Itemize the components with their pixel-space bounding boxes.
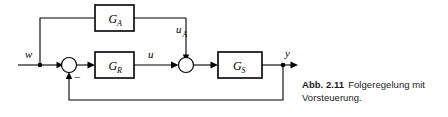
signal-uA-base: u	[176, 23, 182, 35]
figure-root: G A u A w −	[0, 0, 448, 117]
arrowhead-into-sum2	[171, 62, 179, 69]
arrowhead-feedback-into-sum1	[66, 72, 72, 79]
segment-w-to-sum1	[40, 62, 64, 68]
input-w-segment: w	[18, 48, 40, 65]
block-GS[interactable]: G S	[218, 52, 262, 78]
figure-caption-label: Abb. 2.11	[302, 79, 344, 90]
summing-junction-2[interactable]	[179, 58, 194, 73]
signal-y-label: y	[284, 47, 290, 59]
block-GS-subscript: S	[242, 66, 246, 75]
arrowhead-output-y	[291, 62, 299, 69]
signal-w-label: w	[25, 48, 33, 60]
figure-caption: Abb. 2.11Folgeregelung mit Vorsteuerung.	[302, 79, 446, 104]
summing-junction-1[interactable]: −	[62, 58, 82, 85]
block-GA[interactable]: G A	[95, 5, 134, 31]
block-diagram: G A u A w −	[0, 0, 300, 117]
arrowhead-into-GR	[88, 62, 96, 69]
block-GA-subscript: A	[116, 19, 122, 28]
signal-uA-subscript: A	[182, 30, 188, 39]
arrowhead-into-GS	[211, 62, 219, 69]
signal-u-label: u	[148, 48, 154, 60]
segment-sum1-to-GR	[77, 62, 96, 69]
block-GR[interactable]: G R	[95, 52, 134, 78]
block-GR-subscript: R	[116, 66, 122, 75]
segment-GR-to-sum2: u	[134, 48, 179, 68]
summing-junction-1-sign: −	[74, 70, 81, 84]
output-y-segment: y	[262, 47, 298, 68]
summing-junction-2-circle	[179, 58, 194, 73]
segment-sum2-to-GS	[194, 62, 219, 69]
